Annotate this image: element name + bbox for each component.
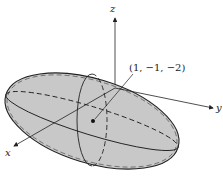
point-marker xyxy=(91,119,95,123)
ellipsoid-diagram xyxy=(0,0,223,177)
x-axis-label: x xyxy=(5,148,11,158)
z-axis-label: z xyxy=(110,4,115,14)
ellipsoid-figure: z y x (1, −1, −2) xyxy=(0,0,223,177)
point-label: (1, −1, −2) xyxy=(129,63,185,73)
y-axis-label: y xyxy=(216,103,222,113)
